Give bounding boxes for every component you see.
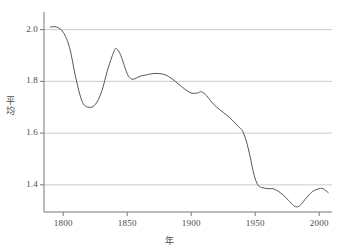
chart-container: 1.41.61.82.0 18001850190019502000 平均 年 xyxy=(0,0,339,252)
line-chart-plot xyxy=(0,0,339,252)
x-tick-label-0: 1800 xyxy=(43,218,83,228)
y-tick-label-1: 1.6 xyxy=(8,127,38,137)
x-axis-title: 年 xyxy=(0,234,339,247)
x-tick-label-3: 1950 xyxy=(235,218,275,228)
y-tick-label-2: 1.8 xyxy=(8,75,38,85)
axes-group xyxy=(44,12,332,212)
series-line-average xyxy=(50,27,328,207)
x-tick-label-4: 2000 xyxy=(299,218,339,228)
y-axis-title: 平均 xyxy=(3,96,17,116)
y-tick-label-3: 2.0 xyxy=(8,24,38,34)
x-tick-label-1: 1850 xyxy=(107,218,147,228)
y-tick-label-0: 1.4 xyxy=(8,179,38,189)
x-tick-label-2: 1900 xyxy=(171,218,211,228)
axis-ticks-group xyxy=(40,30,319,216)
